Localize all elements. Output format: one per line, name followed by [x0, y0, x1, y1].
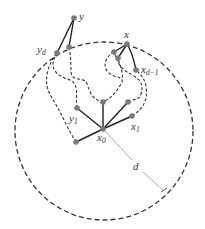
- node-x1: [129, 113, 135, 119]
- node-x-neighbor-a: [111, 49, 117, 55]
- label-y1: y1: [68, 112, 78, 126]
- label-xd1: xd−1: [140, 63, 158, 77]
- node-xd1: [133, 67, 139, 73]
- node-mid: [100, 99, 106, 105]
- label-x0: x0: [96, 131, 106, 145]
- node-yd: [54, 50, 60, 56]
- edge-x0-y1: [77, 108, 103, 129]
- edge-x0-right: [103, 102, 128, 129]
- label-y: y: [78, 10, 84, 22]
- node-x-neighbor-b: [115, 55, 121, 61]
- label-x: x: [123, 28, 129, 40]
- node-right: [125, 99, 131, 105]
- dashed-path-upper: [69, 47, 123, 102]
- label-d: d: [133, 160, 139, 172]
- label-x1: x1: [130, 120, 140, 134]
- radius-line-lower: [143, 172, 164, 191]
- edge-x0-x1: [103, 116, 132, 129]
- dashed-path-y1: [53, 53, 77, 108]
- dashed-path-lower-left: [47, 53, 76, 142]
- radius-line: [103, 129, 132, 160]
- dashed-path-x1: [132, 70, 146, 116]
- node-lowerleft: [73, 139, 79, 145]
- label-yd: yd: [36, 43, 46, 57]
- node-y-neighbor: [66, 44, 72, 50]
- node-y1: [74, 105, 80, 111]
- diagram: y yd x xd−1 y1 x1 x0 d: [0, 0, 205, 229]
- node-y: [71, 15, 77, 21]
- node-x: [124, 41, 130, 47]
